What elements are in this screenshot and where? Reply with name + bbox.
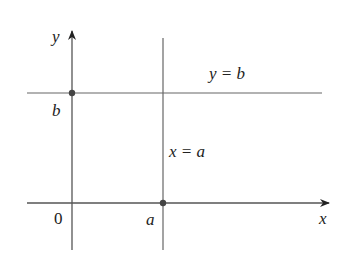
a-label: a <box>146 210 155 229</box>
coordinate-diagram: y b y = b x = a 0 a x <box>0 0 354 269</box>
x-axis-label: x <box>318 209 327 228</box>
line-label-y-equals-b: y = b <box>207 64 245 83</box>
y-axis-label: y <box>50 27 60 46</box>
origin-label: 0 <box>54 209 63 228</box>
point-a <box>160 200 166 206</box>
line-label-x-equals-a: x = a <box>168 142 205 161</box>
point-b <box>69 90 75 96</box>
b-label: b <box>52 101 61 120</box>
